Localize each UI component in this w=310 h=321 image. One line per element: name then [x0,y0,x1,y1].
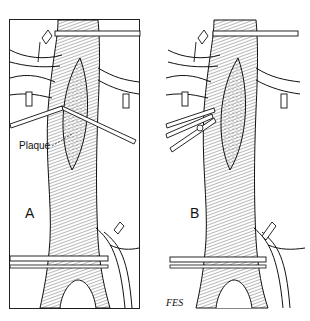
artist-signature: FES [166,298,183,308]
panel-a-label: A [25,206,34,220]
plaque-label: Plaque [19,141,50,151]
endarterectomy-illustration [0,0,310,321]
panel-b [166,20,305,308]
panel-b-label: B [190,206,199,220]
panel-a [10,20,141,309]
